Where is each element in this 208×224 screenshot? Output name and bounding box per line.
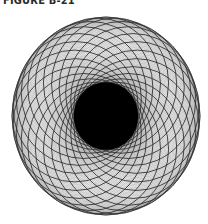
center-black-disc <box>74 82 138 150</box>
rosette-figure <box>0 0 208 224</box>
